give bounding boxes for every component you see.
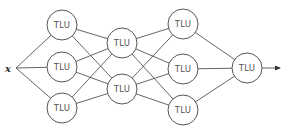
tlu-node-h3-3: TLU bbox=[168, 95, 198, 125]
node-label: TLU bbox=[113, 38, 130, 48]
tlu-node-h1-1: TLU bbox=[47, 10, 77, 40]
node-label: TLU bbox=[174, 64, 191, 74]
tlu-node-h2-1: TLU bbox=[107, 28, 137, 58]
tlu-node-out: TLU bbox=[232, 53, 262, 83]
node-label: TLU bbox=[238, 63, 255, 73]
node-label: TLU bbox=[53, 20, 70, 30]
node-label: TLU bbox=[53, 103, 70, 113]
tlu-node-h1-3: TLU bbox=[47, 93, 77, 123]
neural-network-diagram: TLUTLUTLUTLUTLUTLUTLUTLUTLU x bbox=[0, 0, 289, 133]
tlu-node-h3-2: TLU bbox=[168, 54, 198, 84]
node-label: TLU bbox=[53, 62, 70, 72]
network-canvas: TLUTLUTLUTLUTLUTLUTLUTLUTLU x bbox=[0, 0, 289, 133]
tlu-node-h1-2: TLU bbox=[47, 52, 77, 82]
node-label: TLU bbox=[174, 19, 191, 29]
node-label: TLU bbox=[174, 105, 191, 115]
input-label-x: x bbox=[4, 63, 12, 74]
tlu-node-h3-1: TLU bbox=[168, 9, 198, 39]
tlu-node-h2-2: TLU bbox=[107, 74, 137, 104]
tlu-nodes: TLUTLUTLUTLUTLUTLUTLUTLUTLU bbox=[47, 9, 262, 125]
node-label: TLU bbox=[113, 84, 130, 94]
